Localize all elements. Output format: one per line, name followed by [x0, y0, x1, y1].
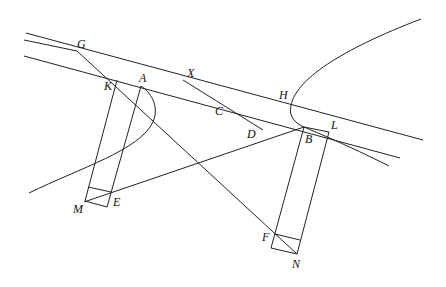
label-h: H	[279, 89, 288, 101]
line-e-b	[84, 127, 304, 202]
label-e: E	[113, 196, 120, 208]
label-b: B	[305, 133, 312, 145]
label-x: X	[187, 67, 194, 79]
rect-left-side-k-m	[85, 80, 117, 201]
label-c: C	[215, 105, 223, 117]
geometry-canvas	[0, 0, 446, 287]
rect-right-side-l-n	[297, 132, 329, 254]
label-a: A	[139, 72, 146, 84]
label-n: N	[292, 258, 300, 270]
label-f: F	[262, 231, 269, 243]
rect-right-side-b-f	[271, 127, 304, 248]
rect-left-bottom-m-e	[85, 201, 107, 207]
label-k: K	[104, 80, 112, 92]
label-g: G	[77, 38, 86, 50]
label-m: M	[73, 203, 83, 215]
line-lower-through-k-a-b	[24, 56, 400, 158]
rect-left-inner-line	[88, 187, 111, 192]
line-through-g-a-tangent	[24, 40, 77, 51]
label-l: L	[331, 119, 338, 131]
label-d: D	[247, 128, 256, 140]
